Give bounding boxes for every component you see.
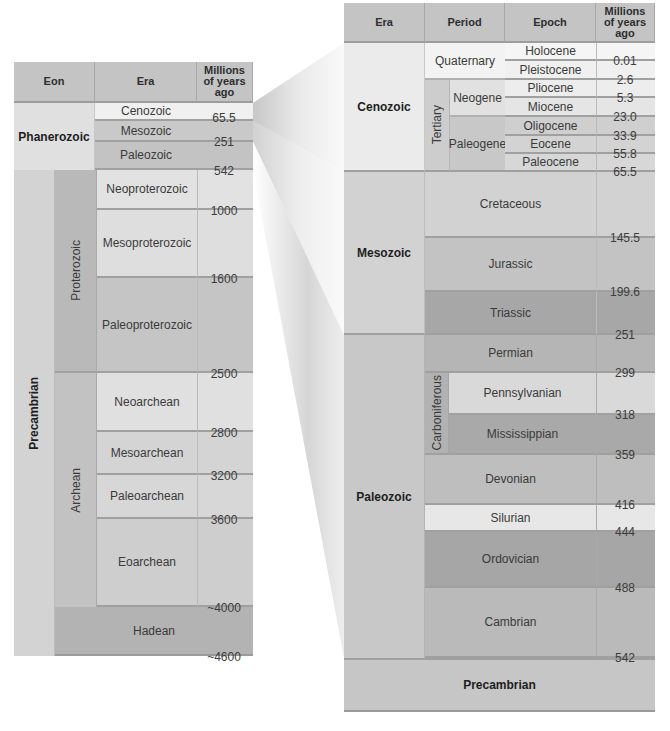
boundary-label: 0.01 (600, 55, 650, 67)
epoch-miocene: Miocene (505, 98, 596, 117)
period-jurassic: Jurassic (425, 238, 596, 292)
epoch-oligocene: Oligocene (505, 117, 596, 136)
boundary-label: 251 (199, 136, 249, 148)
eon-proterozoic: Proterozoic (55, 170, 97, 373)
header-eon: Eon (14, 62, 95, 103)
boundary-label: 359 (600, 449, 650, 461)
period-neogene: Neogene (450, 80, 505, 117)
boundary-label: 542 (199, 165, 249, 177)
header-era: Era (344, 3, 425, 43)
era-cenozoic: Cenozoic (344, 43, 425, 172)
boundary-label: 1600 (199, 273, 249, 285)
ma-cell (596, 588, 655, 658)
boundary-label: 65.5 (600, 166, 650, 178)
header-ma: Millions of years ago (197, 62, 253, 103)
epoch-eocene: Eocene (505, 136, 596, 154)
boundary-label: 318 (600, 409, 650, 421)
period-pennsylvanian: Pennsylvanian (449, 373, 596, 415)
period-quaternary: Quaternary (425, 43, 505, 80)
eon-archean-label: Archean (69, 468, 83, 513)
era-paleoproterozoic: Paleoproterozoic (97, 278, 197, 373)
boundary-label: 199.6 (600, 286, 650, 298)
era-paleozoic: Paleozoic (344, 335, 425, 658)
boundary-label: 299 (600, 367, 650, 379)
epoch-pliocene: Pliocene (505, 80, 596, 98)
period-paleogene: Paleogene (450, 117, 505, 172)
eon-phanerozoic: Phanerozoic (14, 103, 95, 170)
period-triassic: Triassic (425, 292, 596, 335)
boundary-label: 2.6 (600, 74, 650, 86)
ma-cell (197, 373, 253, 432)
period-tertiary-label: Tertiary (430, 105, 444, 144)
boundary-label: 55.8 (600, 148, 650, 160)
boundary-label: 488 (600, 582, 650, 594)
period-tertiary: Tertiary (425, 80, 450, 172)
boundary-label: 251 (600, 329, 650, 341)
boundary-label: 444 (600, 526, 650, 538)
header-period: Period (425, 3, 505, 43)
era-mesoarchean: Mesoarchean (97, 432, 197, 475)
period-carboniferous-label: Carboniferous (430, 375, 444, 450)
header-epoch: Epoch (505, 3, 596, 43)
era-mesozoic: Mesozoic (95, 121, 197, 142)
header-ma: Millions of years ago (596, 3, 655, 43)
period-ordovician: Ordovician (425, 532, 596, 588)
era-paleozoic: Paleozoic (95, 142, 197, 170)
eon-precambrian-label: Precambrian (27, 377, 41, 450)
era-cenozoic: Cenozoic (95, 103, 197, 121)
period-permian: Permian (425, 335, 596, 373)
boundary-label: 416 (600, 499, 650, 511)
ma-cell (596, 532, 655, 588)
boundary-label: ~4000 (199, 602, 249, 614)
boundary-label: 5.3 (600, 92, 650, 104)
boundary-label: 65.5 (199, 112, 249, 124)
epoch-pleistocene: Pleistocene (505, 61, 596, 80)
boundary-label: 1000 (199, 205, 249, 217)
boundary-label: ~4600 (199, 651, 249, 663)
header-era: Era (95, 62, 197, 103)
period-cambrian: Cambrian (425, 588, 596, 658)
eon-proterozoic-label: Proterozoic (69, 240, 83, 301)
boundary-label: 145.5 (600, 232, 650, 244)
era-neoproterozoic: Neoproterozoic (97, 170, 197, 210)
period-mississippian: Mississippian (449, 415, 596, 455)
era-precambrian: Precambrian (344, 658, 655, 712)
ma-cell (596, 172, 655, 238)
period-silurian: Silurian (425, 505, 596, 532)
eon-precambrian: Precambrian (14, 170, 55, 656)
epoch-paleocene: Paleocene (505, 154, 596, 172)
period-carboniferous: Carboniferous (425, 373, 449, 455)
boundary-label: 542 (600, 652, 650, 664)
boundary-label: 23.0 (600, 111, 650, 123)
boundary-label: 3600 (199, 514, 249, 526)
era-eoarchean: Eoarchean (97, 519, 197, 607)
era-paleoarchean: Paleoarchean (97, 475, 197, 519)
era-mesoproterozoic: Mesoproterozoic (97, 210, 197, 278)
boundary-label: 3200 (199, 470, 249, 482)
ma-cell (596, 238, 655, 292)
boundary-label: 2500 (199, 368, 249, 380)
ma-cell (197, 519, 253, 607)
era-mesozoic: Mesozoic (344, 172, 425, 335)
period-devonian: Devonian (425, 455, 596, 505)
era-neoarchean: Neoarchean (97, 373, 197, 432)
boundary-label: 2800 (199, 427, 249, 439)
eon-archean: Archean (55, 373, 97, 607)
period-cretaceous: Cretaceous (425, 172, 596, 238)
ma-cell (197, 210, 253, 278)
boundary-label: 33.9 (600, 130, 650, 142)
epoch-holocene: Holocene (505, 43, 596, 61)
ma-cell (197, 278, 253, 373)
